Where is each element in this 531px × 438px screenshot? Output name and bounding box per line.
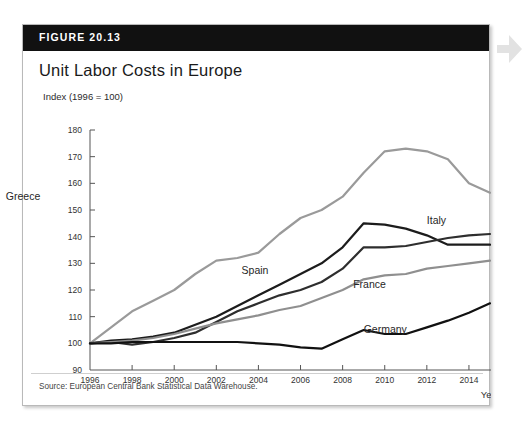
figure-card: FIGURE 20.13 Unit Labor Costs in Europe … — [22, 24, 490, 406]
svg-text:140: 140 — [68, 232, 82, 242]
line-chart-svg: 9010011012013014015016017018019961998200… — [23, 25, 491, 407]
svg-text:100: 100 — [68, 338, 82, 348]
svg-text:160: 160 — [68, 178, 82, 188]
svg-text:120: 120 — [68, 285, 82, 295]
series-label-spain: Spain — [242, 264, 269, 276]
series-label-greece: Greece — [6, 190, 40, 202]
svg-text:150: 150 — [68, 205, 82, 215]
series-label-germany: Germany — [364, 323, 407, 335]
svg-text:180: 180 — [68, 125, 82, 135]
svg-text:Year: Year — [481, 389, 491, 400]
svg-text:2006: 2006 — [291, 375, 310, 385]
svg-text:2008: 2008 — [333, 375, 352, 385]
callout-arrow-icon — [497, 32, 523, 66]
svg-text:110: 110 — [68, 312, 82, 322]
chart-plot-area: 9010011012013014015016017018019961998200… — [23, 25, 491, 407]
svg-text:2010: 2010 — [375, 375, 394, 385]
svg-text:2014: 2014 — [459, 375, 478, 385]
series-label-france: France — [353, 278, 386, 290]
svg-text:2012: 2012 — [417, 375, 436, 385]
footer-divider — [31, 373, 483, 374]
svg-text:130: 130 — [68, 258, 82, 268]
source-note: Source: European Central Bank Statistica… — [39, 382, 258, 391]
series-label-italy: Italy — [427, 214, 446, 226]
svg-text:170: 170 — [68, 152, 82, 162]
